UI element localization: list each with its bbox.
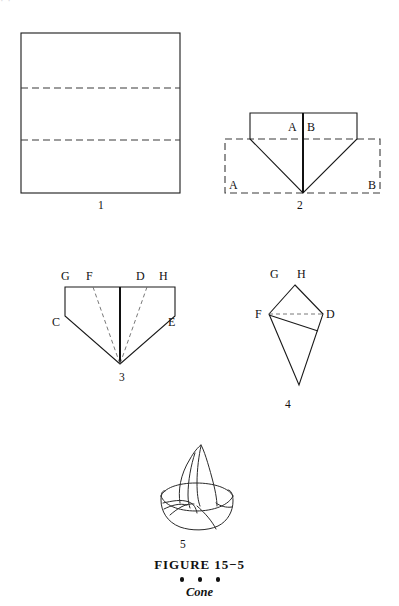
figure-3-label-h: H [159, 270, 168, 282]
figure-caption-title: FIGURE 15−5 [0, 557, 399, 573]
figure-2-label-a-bottom: A [229, 179, 238, 191]
figure-caption-subtitle: Cone [0, 585, 399, 600]
figure-2-label-a-top: A [288, 121, 297, 133]
figure-3-label-f: F [86, 270, 93, 282]
figure-caption: FIGURE 15−5 Cone [0, 557, 399, 600]
figure-4-label-f: F [255, 308, 262, 320]
cone-point-right-edge [201, 445, 217, 506]
figure-2-label-b-top: B [307, 121, 315, 133]
caption-dot-separator [178, 577, 222, 583]
caption-dot-2 [198, 577, 203, 582]
figure-3-label-e: E [168, 316, 175, 328]
figure-5-diagram [150, 443, 250, 535]
rolled-edge-line [269, 315, 318, 331]
caption-dot-3 [216, 577, 221, 582]
caption-dot-1 [180, 577, 185, 582]
figure-4-label-g: G [270, 268, 279, 280]
figure-2-diagram [215, 105, 393, 205]
cone-base-rim-front [161, 496, 233, 511]
figure-4-number: 4 [285, 398, 291, 410]
figure-page: · · 1 A B A B 2 G F D H C E 3 [0, 0, 399, 606]
figure-3-number: 3 [119, 371, 125, 383]
figure-1-number: 1 [98, 199, 104, 211]
figure-2-label-b-bottom: B [368, 179, 376, 191]
figure-3-label-c: C [52, 316, 60, 328]
cone-base-bowl [161, 490, 233, 530]
cone-tip-inner-fold [197, 446, 201, 506]
napkin-square-outline [21, 33, 180, 193]
figure-3-label-g: G [61, 270, 70, 282]
figure-4-diagram [255, 278, 345, 393]
figure-3-label-d: D [136, 270, 145, 282]
figure-2-number: 2 [297, 199, 303, 211]
figure-1-diagram [10, 25, 190, 205]
figure-4-label-d: D [326, 308, 335, 320]
figure-4-label-h: H [297, 268, 306, 280]
page-top-bleed: · · [0, 0, 399, 3]
figure-5-number: 5 [180, 538, 186, 550]
figure-4-kite-outline [269, 285, 323, 385]
